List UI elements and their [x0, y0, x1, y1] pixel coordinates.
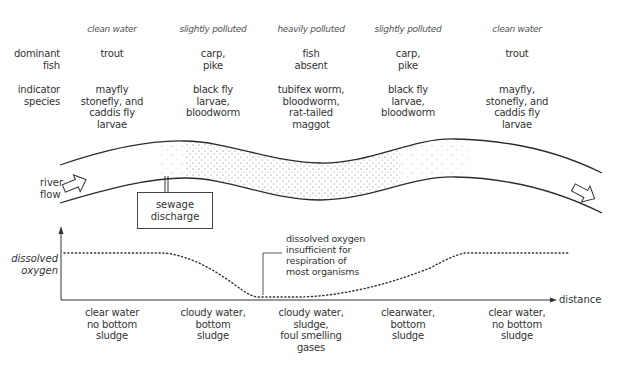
x-axis-label: distance [559, 294, 601, 306]
callout-leader [263, 253, 282, 295]
sewage-discharge-box: sewage discharge [137, 192, 213, 229]
dominant-fish-3: fish absent [256, 48, 366, 71]
water-state-3: cloudy water, sludge, foul smelling gase… [256, 307, 366, 353]
zone-header-3: heavily polluted [256, 24, 366, 34]
indicator-species-4: black fly larvae, bloodworm [353, 84, 463, 119]
indicator-species-5: mayfly, stonefly, and caddis fly larvae [462, 84, 572, 130]
dominant-fish-2: carp, pike [158, 48, 268, 71]
dominant-fish-1: trout [57, 48, 167, 60]
water-state-4: clearwater, bottom sludge [353, 307, 463, 342]
indicator-species-1: mayfly stonefly, and caddis fly larvae [57, 84, 167, 130]
zone-header-2: slightly polluted [158, 24, 268, 34]
indicator-species-3: tubifex worm, bloodworm, rat-tailed magg… [256, 84, 366, 130]
indicator-species-2: black fly larvae, bloodworm [158, 84, 268, 119]
water-state-5: clear water, no bottom sludge [462, 307, 572, 342]
water-state-1: clear water no bottom sludge [57, 307, 167, 342]
zone-header-4: slightly polluted [353, 24, 463, 34]
low-oxygen-callout: dissolved oxygen insufficient for respir… [286, 233, 365, 277]
row-label-dominant-fish: dominant fish [0, 48, 60, 71]
row-label-indicator-species: indicator species [0, 84, 60, 107]
flow-arrow-left-icon [61, 171, 90, 197]
river-flow-label: river flow [40, 177, 63, 200]
y-axis-label: dissolved oxygen [2, 253, 58, 276]
zone-header-1: clean water [57, 24, 167, 34]
dominant-fish-4: carp, pike [353, 48, 463, 71]
zone-header-5: clean water [462, 24, 572, 34]
dominant-fish-5: trout [462, 48, 572, 60]
water-state-2: cloudy water, bottom sludge [158, 307, 268, 342]
flow-arrow-right-icon [569, 179, 599, 206]
